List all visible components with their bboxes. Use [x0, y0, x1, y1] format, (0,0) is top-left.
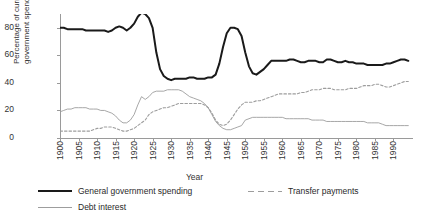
legend-swatch-dashed-icon — [248, 188, 282, 194]
x-tick-label: 1925 — [148, 141, 158, 160]
chart-legend: General government spending Debt interes… — [0, 186, 427, 220]
plot-area — [60, 14, 412, 138]
series-line-general-government-spending — [60, 14, 408, 80]
series-lines — [60, 14, 412, 138]
x-tick-label: 1990 — [388, 141, 398, 160]
x-axis-title-text: Year — [186, 172, 203, 182]
x-tick-label: 1960 — [277, 141, 287, 160]
series-line-transfer-payments — [60, 82, 408, 132]
chart-container: Percentage of current government spendin… — [0, 0, 427, 223]
x-tick-mark — [190, 138, 191, 141]
x-tick-mark — [393, 138, 394, 141]
legend-item-general-government-spending: General government spending — [38, 186, 192, 196]
x-tick-label: 1940 — [203, 141, 213, 160]
x-tick-label: 1945 — [222, 141, 232, 160]
y-tick-label: 40 — [0, 77, 14, 87]
x-tick-mark — [245, 138, 246, 141]
y-axis-title-line2: government spending — [21, 0, 31, 91]
x-tick-mark — [116, 138, 117, 141]
x-tick-label: 1900 — [55, 141, 65, 160]
x-tick-mark — [134, 138, 135, 141]
y-tick-label: 80 — [0, 22, 14, 32]
legend-item-transfer-payments: Transfer payments — [248, 186, 359, 196]
x-tick-mark — [301, 138, 302, 141]
x-tick-mark — [338, 138, 339, 141]
y-tick-label: 60 — [0, 49, 14, 59]
x-axis-title: Year — [0, 172, 427, 182]
y-tick-label: 20 — [0, 104, 14, 114]
x-tick-label: 1985 — [370, 141, 380, 160]
x-tick-mark — [60, 138, 61, 141]
legend-item-debt-interest: Debt interest — [38, 202, 126, 212]
series-line-debt-interest — [60, 90, 408, 130]
x-tick-label: 1915 — [111, 141, 121, 160]
x-tick-label: 1950 — [240, 141, 250, 160]
x-tick-label: 1980 — [351, 141, 361, 160]
x-tick-mark — [79, 138, 80, 141]
legend-swatch-solid-thick-icon — [38, 188, 72, 194]
x-tick-label: 1910 — [92, 141, 102, 160]
x-tick-mark — [319, 138, 320, 141]
legend-swatch-solid-thin-icon — [38, 204, 72, 210]
y-axis-title: Percentage of current government spendin… — [12, 0, 31, 91]
x-tick-mark — [282, 138, 283, 141]
x-tick-label: 1975 — [333, 141, 343, 160]
legend-label-debt-interest: Debt interest — [78, 202, 126, 212]
y-tick-label: 0 — [0, 132, 14, 142]
x-tick-mark — [153, 138, 154, 141]
x-tick-mark — [208, 138, 209, 141]
x-tick-label: 1955 — [259, 141, 269, 160]
legend-label-transfer-payments: Transfer payments — [288, 186, 359, 196]
x-tick-label: 1930 — [166, 141, 176, 160]
x-tick-label: 1935 — [185, 141, 195, 160]
legend-label-general-government-spending: General government spending — [78, 186, 192, 196]
x-tick-mark — [375, 138, 376, 141]
x-tick-mark — [171, 138, 172, 141]
x-tick-mark — [227, 138, 228, 141]
x-tick-mark — [97, 138, 98, 141]
x-tick-label: 1965 — [296, 141, 306, 160]
x-tick-label: 1970 — [314, 141, 324, 160]
x-tick-label: 1920 — [129, 141, 139, 160]
x-tick-mark — [264, 138, 265, 141]
x-tick-label: 1905 — [74, 141, 84, 160]
x-tick-mark — [356, 138, 357, 141]
